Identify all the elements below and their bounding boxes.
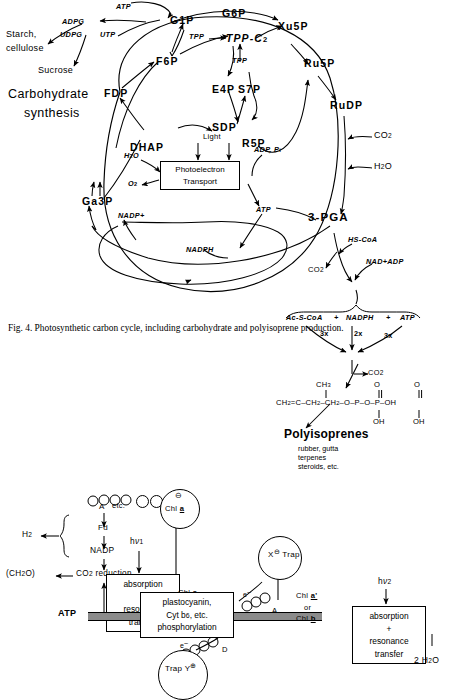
chl-b-label: Chl b [296, 615, 316, 623]
polyisoprene-example-3: steroids, etc. [298, 462, 339, 471]
cofactor-adp-pi: ADP, Pi [254, 146, 281, 154]
psii-line3: resonance [355, 635, 423, 648]
metabolite-ga3p: Ga3P [82, 196, 113, 207]
carbohydrate-output: (CH2O) [6, 570, 35, 578]
cofactor-atp-mid: ATP [256, 206, 271, 213]
metabolite-3-pga: 3-PGA [308, 212, 349, 224]
input-h2o-rudp: H2O [374, 162, 392, 171]
pet-line1: Photoelectron [164, 164, 236, 176]
pigment-circle-1 [136, 495, 149, 508]
structure-phosphoryl-o-2: O [414, 381, 420, 389]
trap-x-label: X⊖ Trap [268, 549, 300, 559]
atp-output-label: ATP [58, 609, 76, 618]
metabolite-g6p: G6P [222, 8, 246, 19]
stoichiometry-3x-b: 3x [384, 332, 393, 339]
input-co2-rudp: CO2 [374, 131, 392, 140]
figure-caption: Fig. 4. Photosynthetic carbon cycle, inc… [8, 322, 213, 335]
precursor-nadph: NADPH [346, 314, 373, 321]
psii-line4: transfer [355, 648, 423, 661]
structure-phosphoryl-o-1: O [374, 381, 380, 389]
product-sucrose: Sucrose [38, 66, 73, 75]
structure-oh-2: OH [413, 418, 425, 426]
cofactor-nadp-plus: NADP+ [118, 212, 144, 219]
polyisoprene-example-1: rubber, gutta [298, 444, 338, 453]
water-input: 2 H2O [414, 656, 439, 665]
cofactor-tpp-1: TPP [189, 33, 204, 40]
section-title-line1: Carbohydrate [8, 88, 89, 101]
ferredoxin-label: Fd [98, 524, 108, 532]
donor-d-label: D [222, 646, 228, 654]
input-h2o-box: H2O [124, 152, 139, 160]
psi-line1: absorption [109, 578, 177, 591]
precursor-atp: ATP [400, 314, 415, 321]
structure-oh-1: OH [373, 418, 385, 426]
or-label: or [304, 604, 311, 611]
cofactor-utp: UTP [100, 31, 116, 38]
product-starch-line2: cellulose [6, 44, 44, 53]
metabolite-rudp: RuDP [330, 100, 363, 111]
light-label: Light [203, 133, 221, 141]
photoelectron-transport-box: Photoelectron Transport [160, 161, 240, 190]
trap-y-circle [158, 650, 208, 700]
co2-release-second: CO2 [368, 369, 384, 377]
section-title-line2: synthesis [24, 107, 80, 120]
etc-line1: plastocyanin, [143, 596, 231, 609]
metabolite-g1p: G1P [170, 15, 194, 26]
precursor-plus-1: + [334, 314, 339, 321]
acceptor-a-left: A [99, 503, 105, 511]
precursor-plus-2: + [386, 314, 391, 321]
metabolite-fdp: FDP [104, 88, 128, 99]
cofactor-atp-top: ATP [116, 3, 131, 10]
electron-label-left: e– [180, 640, 188, 649]
hydrogen-output: H2 [22, 530, 32, 539]
structure-backbone: CH2=C–CH2–CH2–O–P–O–P–OH [276, 399, 396, 407]
co2-release-first: CO2 [308, 266, 324, 274]
metabolite-sdp: SDP [212, 122, 237, 133]
cofactor-nadph: NADPH [186, 246, 213, 253]
stoichiometry-2x: 2x [354, 330, 363, 337]
etc-line3: phosphorylation [143, 621, 231, 634]
trap-y-label: Trap Y⊕ [165, 663, 197, 673]
psii-line2: + [355, 623, 423, 636]
cofactor-hs-coa: HS-CoA [348, 236, 377, 243]
product-starch-line1: Starch, [6, 30, 37, 39]
metabolite-s7p: S7P [238, 84, 261, 95]
stoichiometry-3x-a: 3x [320, 330, 329, 337]
cofactor-udpg: UDPG [60, 31, 82, 38]
polyisoprene-example-2: terpenes [298, 453, 326, 462]
metabolite-xu5p: Xu5P [278, 21, 309, 32]
metabolite-ru5p: Ru5P [304, 58, 335, 69]
electron-transport-chain-box: plastocyanin, Cyt b6, etc. phosphorylati… [140, 592, 234, 638]
electron-label-right: e– [243, 589, 251, 598]
psii-line1: absorption [355, 610, 423, 623]
chl-a-prime-label: Chl a' [296, 592, 317, 600]
metabolite-f6p: F6P [156, 56, 179, 67]
acceptor-a-right: A [272, 607, 277, 615]
cofactor-nad-adp: NAD+ADP [366, 258, 404, 265]
etc-line2: Cyt b6, etc. [143, 609, 231, 622]
nadp-label: NADP [90, 546, 114, 554]
input-o2-box: O2 [128, 180, 137, 188]
metabolite-tpp-c2: TPP-C2 [226, 33, 267, 44]
chl-a-trap-charge: ⊖ [175, 492, 182, 500]
chl-a-trap-label: Chl a [165, 505, 184, 513]
cofactor-tpp-2: TPP [232, 57, 247, 64]
photon-hv1-label: hν1 [130, 537, 143, 546]
photon-hv2-label: hν2 [378, 577, 391, 586]
precursor-ac-s-coa: Ac-S-CoA [286, 314, 322, 321]
cofactor-adpg: ADPG [62, 18, 84, 25]
structure-methyl-group: CH3 [316, 381, 331, 389]
metabolite-e4p: E4P [212, 84, 235, 95]
pet-line2: Transport [164, 176, 236, 188]
product-polyisoprenes-title: Polyisoprenes [284, 428, 369, 440]
etc-label: etc. [112, 502, 125, 509]
